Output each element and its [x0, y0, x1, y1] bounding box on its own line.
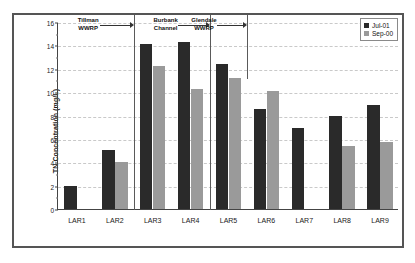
annotation-arrow-head [130, 22, 134, 28]
y-tick-label: 12 [47, 66, 54, 73]
annotation-label: BurbankChannel [153, 17, 177, 32]
annotation-arrow-line [100, 25, 130, 26]
y-tick-label: 10 [47, 90, 54, 97]
chart-figure: TN Concentration (mg/L) 0246810121416 LA… [12, 13, 404, 248]
x-tick-label: LAR8 [333, 217, 351, 224]
bar-group [285, 23, 323, 209]
bar [115, 162, 128, 209]
bar [329, 116, 342, 209]
y-tick-label: 8 [50, 113, 54, 120]
annotation-line-2: Channel [153, 25, 177, 33]
x-tick-label: LAR2 [106, 217, 124, 224]
annotation-arrow-head [243, 22, 247, 28]
bar-group [58, 23, 96, 209]
bars-layer [58, 23, 398, 209]
x-tick-label: LAR6 [258, 217, 276, 224]
annotation-arrow-line [217, 25, 243, 26]
x-tick-label: LAR5 [220, 217, 238, 224]
bar-group [172, 23, 210, 209]
bar [140, 44, 153, 209]
y-tick-label: 0 [50, 207, 54, 214]
legend-item: Sep-00 [364, 30, 393, 37]
bar [191, 89, 204, 209]
y-tick-label: 2 [50, 183, 54, 190]
legend-swatch-icon [364, 23, 369, 28]
legend-item: Jul-01 [364, 22, 393, 29]
bar-group [96, 23, 134, 209]
legend-label: Jul-01 [372, 22, 390, 29]
y-tick-label: 16 [47, 20, 54, 27]
legend-swatch-icon [364, 31, 369, 36]
bar [292, 128, 305, 209]
annotation-line-1: Tillman [78, 17, 99, 25]
bar-group [247, 23, 285, 209]
annotation-line-1: Glendale [191, 17, 216, 25]
bar [178, 42, 191, 209]
bar [367, 105, 380, 209]
x-tick-label: LAR1 [68, 217, 86, 224]
bar [102, 150, 115, 209]
bar [342, 146, 355, 209]
chart-legend: Jul-01Sep-00 [360, 18, 398, 41]
bar [153, 66, 166, 209]
bar [64, 186, 77, 209]
x-tick-label: LAR3 [144, 217, 162, 224]
x-tick-label: LAR4 [182, 217, 200, 224]
annotation-label: GlendaleWWRP [191, 17, 216, 32]
segment-divider [247, 15, 248, 79]
bar-group [361, 23, 399, 209]
annotation-line-2: WWRP [78, 25, 99, 33]
annotation-line-1: Burbank [153, 17, 177, 25]
bar-group [134, 23, 172, 209]
annotation-line-2: WWRP [191, 25, 216, 33]
y-tick-label: 6 [50, 136, 54, 143]
y-tick-label: 14 [47, 43, 54, 50]
plot-area: 0246810121416 LAR1LAR2LAR3LAR4LAR5LAR6LA… [57, 23, 398, 210]
segment-divider [134, 15, 135, 210]
bar [254, 109, 267, 210]
bar [216, 64, 229, 209]
x-tick-label: LAR7 [296, 217, 314, 224]
bar-group [210, 23, 248, 209]
bar [267, 91, 280, 209]
bar-group [323, 23, 361, 209]
bar [229, 78, 242, 209]
x-tick-label: LAR9 [371, 217, 389, 224]
legend-label: Sep-00 [372, 30, 393, 37]
y-tick-mark [55, 210, 58, 211]
annotation-label: TillmanWWRP [78, 17, 99, 32]
y-tick-label: 4 [50, 160, 54, 167]
segment-divider [210, 15, 211, 210]
bar [380, 142, 393, 209]
